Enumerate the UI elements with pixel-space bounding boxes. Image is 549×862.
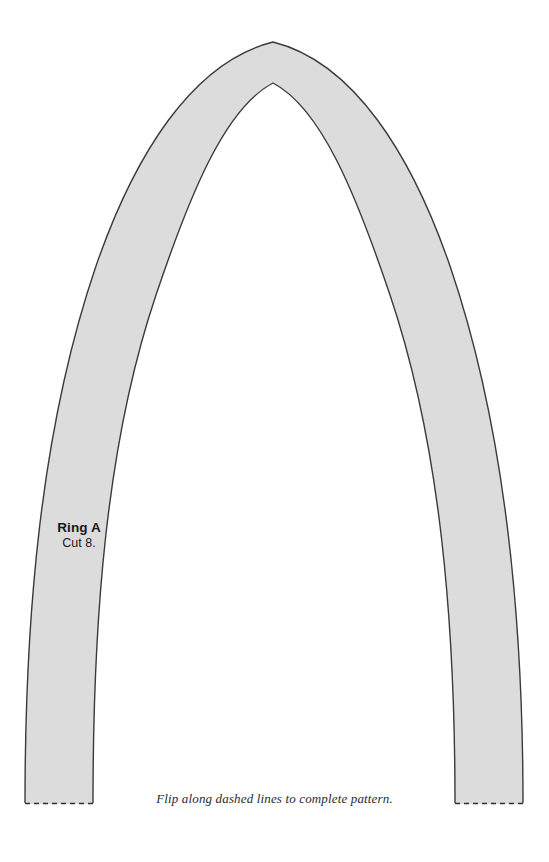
cut-quantity-label: Cut 8. [34,536,124,550]
pattern-page: Ring A Cut 8. Flip along dashed lines to… [0,0,549,862]
footer-instruction-note: Flip along dashed lines to complete patt… [0,791,549,807]
piece-label-block: Ring A Cut 8. [34,520,124,550]
piece-name-label: Ring A [34,520,124,535]
arch-pattern-graphic [0,0,549,862]
arch-band-shape [25,42,523,804]
